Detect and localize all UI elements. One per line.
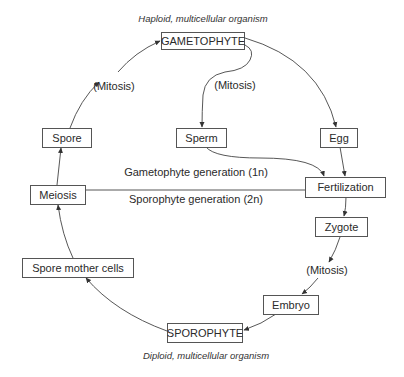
gametophyte-generation-label: Gametophyte generation (1n) — [124, 166, 268, 178]
arrow-mitosis-to-gametophyte — [118, 41, 160, 72]
mitosis-label-zygote-to-embryo: (Mitosis) — [306, 264, 348, 276]
arrow-mitosis-to-embryo — [302, 278, 318, 294]
sporophyte-generation-label: Sporophyte generation (2n) — [129, 193, 263, 205]
arrow-embryo-to-sporophyte — [244, 314, 276, 330]
node-zygote: Zygote — [315, 217, 368, 237]
arrow-fertilization-to-zygote — [344, 197, 346, 216]
haploid-organism-caption: Haploid, multicellular organism — [138, 13, 267, 24]
node-sperm: Sperm — [176, 128, 227, 148]
node-fertilization: Fertilization — [305, 177, 386, 198]
node-embryo: Embryo — [263, 295, 319, 315]
node-egg: Egg — [320, 128, 358, 148]
arrow-zygote-to-mitosis — [329, 237, 340, 262]
node-meiosis: Meiosis — [30, 185, 86, 205]
node-gametophyte: GAMETOPHYTE — [161, 32, 245, 50]
mitosis-label-spore-to-gametophyte: (Mitosis) — [93, 80, 135, 92]
node-sporophyte: SPOROPHYTE — [167, 323, 243, 343]
arrow-gametophyte-to-egg — [245, 38, 336, 127]
arrow-spore-mother-cells-to-meiosis — [58, 205, 73, 258]
node-spore: Spore — [42, 128, 92, 148]
node-spore-mother-cells: Spore mother cells — [22, 258, 134, 278]
diploid-organism-caption: Diploid, multicellular organism — [143, 350, 269, 361]
arrow-egg-to-fertilization — [340, 147, 345, 176]
mitosis-label-gametophyte-to-sperm: (Mitosis) — [214, 79, 256, 91]
arrow-meiosis-to-spore — [57, 148, 61, 185]
arrow-sporophyte-to-spore-mother-cells — [86, 278, 167, 331]
